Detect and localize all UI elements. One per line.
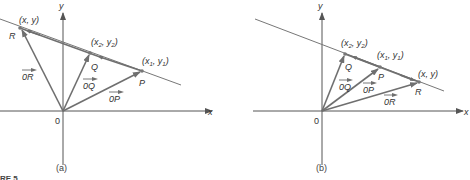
vector-label-0p: 0P	[109, 92, 121, 104]
coord-label-r: (x, y)	[19, 15, 39, 25]
caption-b: (b)	[316, 163, 327, 173]
x-axis-label: x	[207, 107, 213, 117]
point-q	[88, 51, 92, 55]
point-label-p: P	[378, 72, 384, 82]
coord-label-r: (x, y)	[418, 69, 438, 79]
coord-label-q: (x2, y2)	[341, 38, 368, 49]
point-p	[378, 65, 382, 69]
svg-text:0Q: 0Q	[83, 81, 95, 91]
panel-a: x y 0 R Q P (x, y) (x2, y2) (x1, y1) 0R	[0, 1, 213, 173]
y-axis-label: y	[317, 1, 323, 11]
caption-a: (a)	[56, 163, 67, 173]
point-label-r: R	[415, 87, 422, 97]
vector-line-diagram: x y 0 R Q P (x, y) (x2, y2) (x1, y1) 0R	[0, 0, 470, 180]
vector-label-0p: 0P	[363, 83, 374, 95]
svg-text:0P: 0P	[363, 85, 374, 95]
svg-text:0R: 0R	[384, 97, 396, 107]
point-label-q: Q	[345, 62, 352, 72]
svg-text:0R: 0R	[22, 72, 34, 82]
svg-text:0Q: 0Q	[339, 82, 351, 92]
x-axis-label: x	[463, 107, 469, 117]
vector-0p	[63, 72, 140, 111]
point-label-q: Q	[91, 62, 98, 72]
figure-label-fragment: RE 5	[0, 174, 18, 180]
coord-label-p: (x1, y1)	[142, 56, 169, 67]
panel-b: x y 0 Q P R (x2, y2) (x1, y1) (x, y) 0Q	[253, 1, 469, 173]
vector-label-0q: 0Q	[339, 80, 351, 92]
point-r	[18, 26, 22, 30]
coord-label-p: (x1, y1)	[377, 50, 404, 61]
point-r	[417, 80, 421, 84]
vector-label-0r: 0R	[22, 70, 34, 82]
origin-label: 0	[314, 116, 319, 126]
point-label-p: P	[139, 78, 145, 88]
vector-label-0q: 0Q	[83, 79, 95, 91]
point-label-r: R	[9, 31, 16, 41]
origin-label: 0	[55, 116, 60, 126]
point-p	[140, 69, 144, 73]
coord-label-q: (x2, y2)	[91, 37, 118, 48]
y-axis-label: y	[58, 1, 64, 11]
svg-text:0P: 0P	[109, 94, 120, 104]
vector-label-0r: 0R	[384, 95, 396, 107]
segment-p-r-arrow	[400, 75, 413, 80]
point-q	[343, 52, 347, 56]
segment-p-q-arrow	[100, 57, 142, 71]
